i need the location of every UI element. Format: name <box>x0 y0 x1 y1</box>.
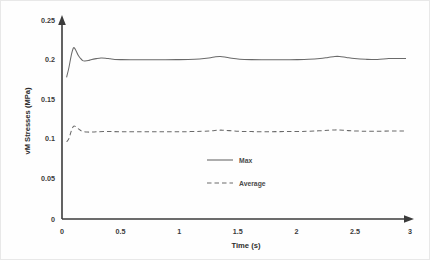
y-axis-title: vM Stresses (MPa) <box>23 87 32 155</box>
chart-canvas: 0.25 0.2 0.15 0.1 0.05 0 0 0.5 1 1.5 2 2… <box>1 1 430 260</box>
x-tick-label: 0 <box>60 227 64 236</box>
y-tick-label: 0.1 <box>45 134 55 143</box>
legend-label-max: Max <box>239 157 252 164</box>
series-line-average <box>67 126 406 142</box>
legend-label-average: Average <box>239 180 266 188</box>
x-tick-label: 3 <box>408 227 412 236</box>
x-tick-label: 2 <box>294 227 298 236</box>
x-tick-label: 1.5 <box>233 227 243 236</box>
y-axis-arrow-icon <box>58 15 66 25</box>
x-axis-arrow-icon <box>404 215 414 223</box>
chart-figure: 0.25 0.2 0.15 0.1 0.05 0 0 0.5 1 1.5 2 2… <box>0 0 430 260</box>
y-tick-label: 0.15 <box>41 95 55 104</box>
x-axis-title: Time (s) <box>232 241 261 250</box>
series-line-max <box>67 48 406 78</box>
y-tick-label: 0.25 <box>41 16 55 25</box>
x-tick-label: 2.5 <box>350 227 360 236</box>
y-tick-label: 0 <box>51 215 55 224</box>
y-tick-label: 0.2 <box>45 55 55 64</box>
chart-legend: Max Average <box>207 157 266 188</box>
y-tick-label: 0.05 <box>41 174 55 183</box>
x-tick-label: 1 <box>177 227 181 236</box>
x-tick-label: 0.5 <box>116 227 126 236</box>
